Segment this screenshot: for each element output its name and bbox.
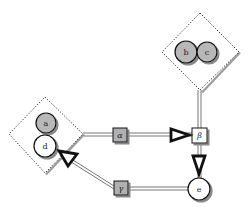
node-d-label: d <box>42 142 47 151</box>
node-alpha-label: α <box>117 131 123 140</box>
node-e-label: e <box>197 185 202 194</box>
edges <box>60 90 201 190</box>
node-beta-label: β <box>196 131 202 140</box>
arrow-down-icon <box>193 156 205 174</box>
edge-e-gamma <box>128 187 188 190</box>
node-b-label: b <box>183 48 188 57</box>
diagram-canvas: b c a d e α β γ <box>0 0 250 207</box>
edge-groupbc-beta <box>198 90 201 128</box>
node-gamma-label: γ <box>119 184 124 193</box>
edge-groupad-alpha <box>83 133 113 136</box>
arrow-right-icon <box>171 129 189 141</box>
node-c-label: c <box>205 48 210 57</box>
node-a-label: a <box>44 119 49 128</box>
